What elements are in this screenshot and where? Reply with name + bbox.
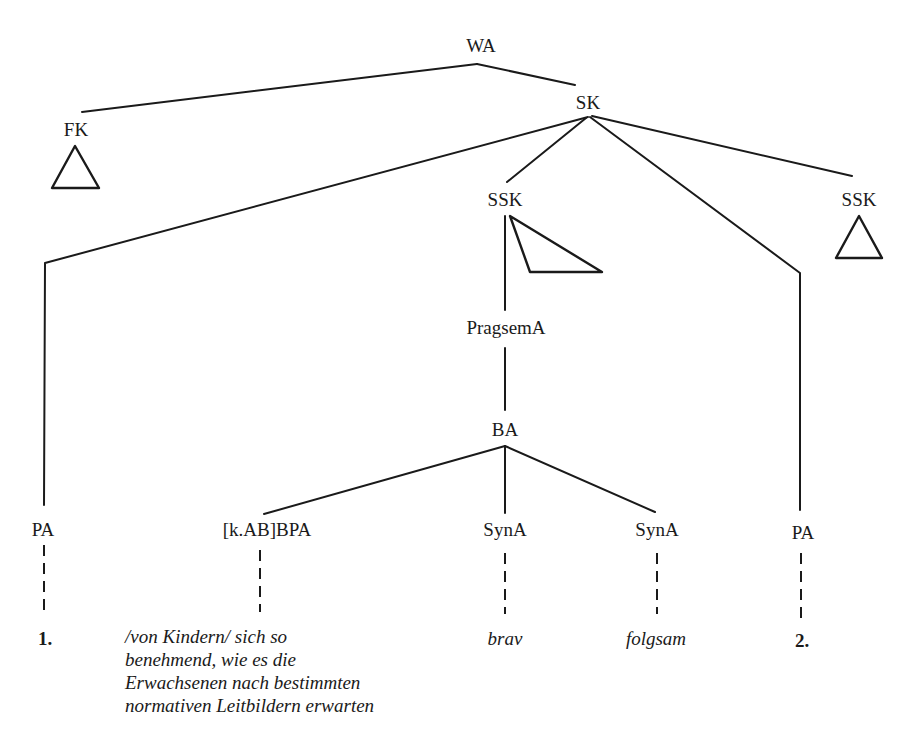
node-sk: SK	[576, 93, 600, 113]
leaf-kab-bpa-line-1: /von Kindern/ sich so	[125, 625, 374, 648]
leaf-kab-bpa-definition: /von Kindern/ sich so benehmend, wie es …	[125, 625, 374, 717]
node-ssk-right: SSK	[842, 190, 877, 210]
leaf-folgsam: folgsam	[626, 629, 686, 649]
node-ssk-middle: SSK	[488, 190, 523, 210]
edge-wa-fk	[82, 64, 477, 112]
leaf-brav: brav	[488, 629, 523, 649]
node-syna-1: SynA	[483, 520, 526, 540]
edge-ba-syna-2	[505, 446, 655, 512]
leaf-kab-bpa-line-2: benehmend, wie es die	[125, 648, 374, 671]
ssk-right-triangle-icon	[836, 216, 882, 258]
edge-wa-sk	[477, 64, 575, 85]
ssk-middle-triangle-icon	[510, 216, 602, 272]
node-pragsema: PragsemA	[466, 318, 545, 338]
node-syna-2: SynA	[635, 520, 678, 540]
edge-sk-pa-right	[590, 117, 800, 510]
leaf-pa-left-number: 1.	[38, 629, 52, 649]
fk-triangle-icon	[52, 146, 99, 188]
node-pa-right: PA	[792, 523, 815, 543]
node-wa: WA	[466, 36, 496, 56]
edge-ba-kab-bpa	[264, 446, 505, 514]
leaf-kab-bpa-line-4: normativen Leitbildern erwarten	[125, 694, 374, 717]
leaf-pa-right-number: 2.	[795, 631, 809, 651]
node-fk: FK	[64, 120, 88, 140]
node-pa-left: PA	[32, 520, 55, 540]
leaf-kab-bpa-line-3: Erwachsenen nach bestimmten	[125, 671, 374, 694]
edge-sk-ssk-right	[592, 116, 852, 176]
node-kab-bpa: [k.AB]BPA	[223, 520, 312, 540]
node-ba: BA	[492, 420, 518, 440]
